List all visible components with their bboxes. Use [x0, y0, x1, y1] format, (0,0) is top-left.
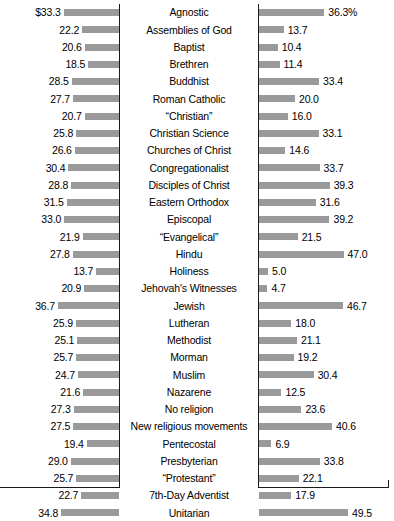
- category-label: “Protestant”: [162, 473, 215, 484]
- category-label: Pentecostal: [162, 439, 215, 450]
- category-label-cell: Roman Catholic: [120, 90, 258, 107]
- category-label: Baptist: [173, 42, 204, 53]
- left-bar: [64, 9, 119, 16]
- chart-row: 36.7Jewish46.7: [0, 297, 394, 314]
- left-value-cell: 30.4: [0, 159, 119, 176]
- left-bar: [96, 268, 119, 275]
- category-label-cell: Buddhist: [120, 73, 258, 90]
- left-value-cell: 20.9: [0, 280, 119, 297]
- category-label: Lutheran: [169, 318, 209, 329]
- right-value-cell: 23.6: [259, 401, 394, 418]
- chart-row: 28.8Disciples of Christ39.3: [0, 177, 394, 194]
- left-value-cell: 21.6: [0, 384, 119, 401]
- chart-row: 22.2Assemblies of God13.7: [0, 21, 394, 38]
- left-value-label: 28.5: [49, 76, 69, 87]
- category-label: Morman: [170, 352, 208, 363]
- right-bar: [259, 95, 295, 102]
- category-label: Nazarene: [167, 387, 211, 398]
- right-bar: [259, 302, 343, 309]
- category-label-cell: “Protestant”: [120, 470, 258, 487]
- right-value-label: 14.6: [289, 145, 309, 156]
- right-value-cell: 22.1: [259, 470, 394, 487]
- left-value-label: 36.7: [35, 301, 55, 312]
- chart-row: 27.7Roman Catholic20.0: [0, 90, 394, 107]
- left-bar: [72, 78, 119, 85]
- left-value-label: 25.7: [53, 473, 73, 484]
- right-value-cell: 30.4: [259, 366, 394, 383]
- right-bar: [259, 182, 330, 189]
- left-bar: [74, 406, 119, 413]
- left-value-label: 20.6: [62, 42, 82, 53]
- category-label: Roman Catholic: [153, 94, 226, 105]
- right-bar: [259, 44, 278, 51]
- right-bar: [259, 285, 267, 292]
- right-value-cell: 14.6: [259, 142, 394, 159]
- left-bar: [78, 371, 119, 378]
- right-value-cell: 18.0: [259, 315, 394, 332]
- right-value-label: 36.3%: [328, 7, 357, 18]
- right-bar: [259, 458, 320, 465]
- left-value-cell: 25.1: [0, 332, 119, 349]
- left-value-cell: 33.0: [0, 211, 119, 228]
- right-bar: [259, 320, 291, 327]
- left-value-cell: 28.8: [0, 177, 119, 194]
- right-value-cell: 13.7: [259, 21, 394, 38]
- category-label: Jehovah's Witnesses: [141, 283, 236, 294]
- left-value-cell: 21.9: [0, 228, 119, 245]
- left-value-label: 27.5: [50, 421, 70, 432]
- category-label-cell: Baptist: [120, 39, 258, 56]
- right-value-label: 13.7: [288, 25, 308, 36]
- right-value-label: 33.7: [324, 163, 344, 174]
- left-value-label: $33.3: [35, 7, 61, 18]
- category-label: Disciples of Christ: [148, 180, 229, 191]
- chart-row: 25.8Christian Science33.1: [0, 125, 394, 142]
- left-value-label: 34.8: [38, 508, 58, 519]
- chart-row: 25.7“Protestant”22.1: [0, 470, 394, 487]
- category-label-cell: Jehovah's Witnesses: [120, 280, 258, 297]
- right-bar: [259, 509, 348, 516]
- category-label: Jewish: [173, 301, 204, 312]
- left-value-cell: 29.0: [0, 453, 119, 470]
- right-value-cell: 33.1: [259, 125, 394, 142]
- right-value-label: 23.6: [305, 404, 325, 415]
- category-label-cell: Christian Science: [120, 125, 258, 142]
- right-value-label: 18.0: [295, 318, 315, 329]
- left-value-cell: 26.6: [0, 142, 119, 159]
- right-value-label: 4.7: [271, 283, 285, 294]
- right-value-cell: 6.9: [259, 435, 394, 452]
- left-bar: [73, 95, 119, 102]
- category-label: Methodist: [167, 335, 211, 346]
- left-value-cell: 19.4: [0, 435, 119, 452]
- category-label-cell: Episcopal: [120, 211, 258, 228]
- chart-row: 20.9Jehovah's Witnesses4.7: [0, 280, 394, 297]
- left-value-label: 20.9: [61, 283, 81, 294]
- chart-row: 25.9Lutheran18.0: [0, 315, 394, 332]
- right-value-label: 33.1: [323, 128, 343, 139]
- category-label: Brethren: [169, 59, 208, 70]
- right-value-cell: 20.0: [259, 90, 394, 107]
- left-value-cell: 27.8: [0, 246, 119, 263]
- category-label: Holiness: [169, 266, 208, 277]
- right-value-cell: 17.9: [259, 487, 394, 504]
- chart-row: 13.7Holiness5.0: [0, 263, 394, 280]
- right-bar: [259, 423, 332, 430]
- chart-row: 20.7“Christian”16.0: [0, 108, 394, 125]
- chart-row: 22.77th-Day Adventist17.9: [0, 487, 394, 504]
- right-bar: [259, 354, 294, 361]
- left-bar: [76, 475, 119, 482]
- category-label: 7th-Day Adventist: [149, 490, 229, 501]
- left-value-label: 33.0: [41, 214, 61, 225]
- right-bar: [259, 406, 301, 413]
- category-label: Presbyterian: [160, 456, 217, 467]
- chart-row: 27.3No religion23.6: [0, 401, 394, 418]
- left-bar: [75, 147, 119, 154]
- left-value-label: 21.6: [60, 387, 80, 398]
- left-value-cell: 27.3: [0, 401, 119, 418]
- left-value-cell: 20.6: [0, 39, 119, 56]
- category-label-cell: Jewish: [120, 297, 258, 314]
- category-label: Agnostic: [169, 7, 208, 18]
- right-bar: [259, 26, 284, 33]
- right-bar: [259, 164, 320, 171]
- category-label: Buddhist: [169, 76, 209, 87]
- chart-row: 24.7Muslim30.4: [0, 366, 394, 383]
